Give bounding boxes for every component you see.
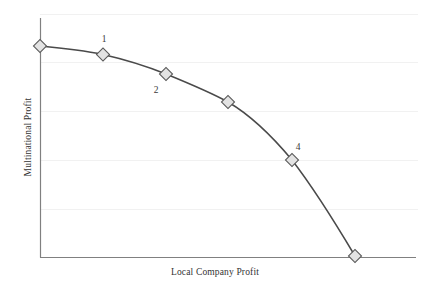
data-point-0 — [33, 39, 46, 52]
data-point-1 — [96, 48, 109, 61]
plot-canvas — [0, 0, 430, 298]
point-label-2: 2 — [148, 85, 164, 95]
data-markers — [33, 39, 361, 262]
chart-figure: 1 2 4 Local Company Profit Multinational… — [0, 0, 430, 298]
data-point-2 — [159, 67, 172, 80]
x-axis-title: Local Company Profit — [0, 267, 430, 277]
point-label-4: 4 — [290, 142, 306, 152]
data-point-3 — [221, 95, 234, 108]
data-point-5 — [348, 249, 361, 262]
data-curve — [40, 46, 355, 256]
y-axis-title: Multinational Profit — [23, 57, 33, 217]
point-label-1: 1 — [96, 34, 112, 44]
